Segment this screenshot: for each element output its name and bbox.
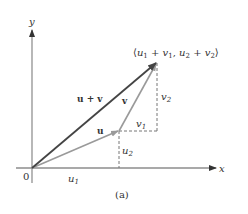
u1-label: u1 <box>68 173 79 186</box>
vector-addition-diagram: y x 0 u + v v u u1 u2 v1 v2 ⟨u1 + v1, u2… <box>0 0 248 214</box>
endpoint-label: ⟨u1 + v1, u2 + v2⟩ <box>133 47 219 60</box>
y-axis-label: y <box>28 16 35 27</box>
vector-u-plus-v <box>32 63 156 168</box>
u2-label: u2 <box>122 145 133 158</box>
vector-u <box>32 131 118 168</box>
x-axis-label: x <box>219 163 225 174</box>
caption: (a) <box>115 189 129 200</box>
v-label: v <box>121 96 128 106</box>
sum-label: u + v <box>77 94 103 104</box>
v2-label: v2 <box>161 91 172 104</box>
v1-label: v1 <box>136 118 146 131</box>
origin-label: 0 <box>23 171 29 182</box>
u-label: u <box>97 126 104 136</box>
